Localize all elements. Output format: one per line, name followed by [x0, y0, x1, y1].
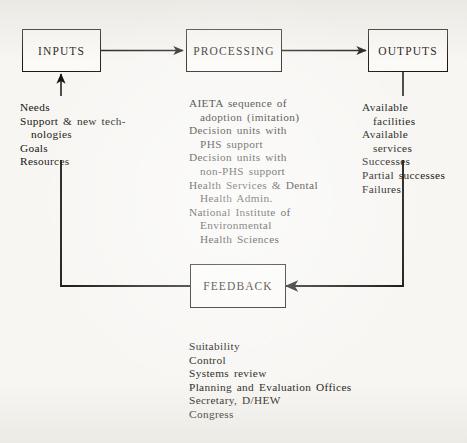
- node-feedback-label: FEEDBACK: [203, 280, 273, 292]
- processing-list: AIETA sequence of adoption (imitation) D…: [189, 97, 318, 247]
- processing-list-line: Decision units with: [189, 124, 318, 138]
- outputs-list-line: Successes: [362, 155, 445, 169]
- feedback-list-line: Congress: [189, 408, 352, 422]
- processing-list-line: National Institute of: [189, 206, 318, 220]
- processing-list-line: Environmental: [189, 219, 318, 233]
- inputs-list-line: Needs: [20, 101, 126, 115]
- feedback-list-line: Suitability: [189, 340, 352, 354]
- node-inputs-label: INPUTS: [38, 45, 85, 57]
- feedback-list-line: Control: [189, 354, 352, 368]
- outputs-list-line: Partial successes: [362, 169, 445, 183]
- node-processing-label: PROCESSING: [193, 45, 274, 57]
- processing-list-line: AIETA sequence of: [189, 97, 318, 111]
- processing-list-line: Health Admin.: [189, 192, 318, 206]
- systems-flow-diagram: INPUTS PROCESSING OUTPUTS FEEDBACK Needs…: [0, 0, 467, 443]
- outputs-list: Available facilities Available services …: [362, 101, 445, 196]
- outputs-list-line: services: [362, 142, 445, 156]
- inputs-list-line: Resources: [20, 155, 126, 169]
- processing-list-line: adoption (imitation): [189, 111, 318, 125]
- node-processing[interactable]: PROCESSING: [186, 29, 282, 72]
- processing-list-line: Decision units with: [189, 151, 318, 165]
- feedback-list-line: Secretary, D/HEW: [189, 394, 352, 408]
- inputs-list-line: Goals: [20, 142, 126, 156]
- inputs-list: Needs Support & new tech- nologies Goals…: [20, 101, 126, 169]
- node-inputs[interactable]: INPUTS: [22, 29, 101, 72]
- feedback-list-line: Systems review: [189, 367, 352, 381]
- processing-list-line: non-PHS support: [189, 165, 318, 179]
- node-feedback[interactable]: FEEDBACK: [190, 264, 286, 308]
- feedback-return-path-left: [61, 160, 190, 286]
- outputs-list-line: Failures: [362, 183, 445, 197]
- inputs-list-line: Support & new tech-: [20, 115, 126, 129]
- feedback-list: Suitability Control Systems review Plann…: [189, 340, 352, 422]
- outputs-list-line: Available: [362, 101, 445, 115]
- outputs-list-line: facilities: [362, 115, 445, 129]
- processing-list-line: Health Sciences: [189, 233, 318, 247]
- outputs-list-line: Available: [362, 128, 445, 142]
- node-outputs[interactable]: OUTPUTS: [368, 29, 448, 72]
- processing-list-line: PHS support: [189, 138, 318, 152]
- inputs-list-line: nologies: [20, 128, 126, 142]
- feedback-list-line: Planning and Evaluation Offices: [189, 381, 352, 395]
- node-outputs-label: OUTPUTS: [378, 45, 437, 57]
- processing-list-line: Health Services & Dental: [189, 179, 318, 193]
